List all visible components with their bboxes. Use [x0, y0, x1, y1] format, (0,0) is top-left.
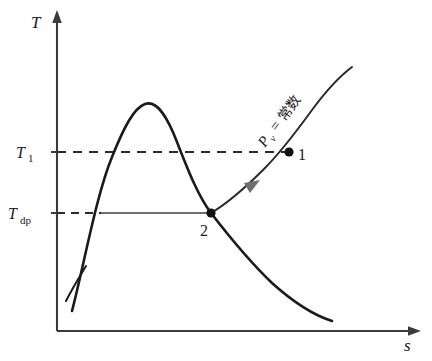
- isobar-label-group: P v = 常数: [254, 91, 306, 152]
- state-point-1-label: 1: [298, 146, 306, 163]
- process-direction-arrow: [244, 180, 260, 193]
- state-point-1-marker: [284, 147, 293, 156]
- ts-diagram-canvas: T s T 1 T dp 1 2: [0, 0, 432, 361]
- state-point-2-label: 2: [200, 222, 208, 239]
- ts-diagram-figure: T s T 1 T dp 1 2: [0, 0, 432, 361]
- isobar-curve: [211, 67, 352, 213]
- label-tdp: T dp: [8, 205, 32, 226]
- label-tdp-subscript: dp: [20, 214, 32, 226]
- y-axis-arrowhead: [52, 10, 62, 23]
- x-axis-label: s: [404, 336, 411, 355]
- isobar-label-value: 常数: [275, 92, 304, 124]
- label-tdp-base: T: [8, 205, 18, 222]
- state-point-2-marker: [206, 208, 215, 217]
- label-t1: T 1: [16, 144, 34, 164]
- x-axis-arrowhead: [408, 326, 421, 336]
- label-t1-subscript: 1: [28, 152, 34, 164]
- y-axis-label: T: [31, 13, 42, 32]
- label-t1-base: T: [16, 144, 26, 161]
